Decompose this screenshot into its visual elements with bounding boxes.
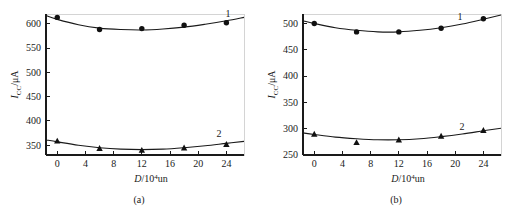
y-tick-label: 250: [283, 149, 298, 160]
data-point-marker-circle: [481, 16, 486, 21]
y-tick-label: 500: [283, 18, 298, 29]
x-tick-label: 16: [422, 158, 432, 169]
y-tick-label: 450: [26, 91, 41, 102]
series-curve-2: [303, 128, 501, 140]
y-tick-label: 300: [283, 123, 298, 134]
data-point-marker-circle: [181, 22, 186, 27]
data-point-marker-circle: [224, 20, 229, 25]
y-axis-title: ICC/μA: [9, 70, 23, 100]
chart-svg-b: 2503003504004505000481216202412D/104unIC…: [257, 0, 514, 215]
x-tick-label: 20: [193, 158, 203, 169]
series-curve-1: [303, 15, 501, 32]
y-tick-label: 400: [26, 115, 41, 126]
data-point-marker-circle: [312, 21, 317, 26]
x-tick-label: 4: [340, 158, 345, 169]
data-point-marker-circle: [97, 27, 102, 32]
x-tick-label: 8: [368, 158, 373, 169]
x-tick-label: 0: [55, 158, 60, 169]
x-tick-label: 4: [83, 158, 88, 169]
panel-caption: (a): [133, 194, 144, 206]
y-tick-label: 450: [283, 44, 298, 55]
series-label-2: 2: [460, 121, 465, 132]
plot-frame: [303, 14, 501, 155]
y-tick-label: 550: [26, 42, 41, 53]
x-tick-label: 24: [221, 158, 231, 169]
x-tick-label: 8: [111, 158, 116, 169]
y-tick-label: 350: [26, 140, 41, 151]
chart-svg-a: 3504004505005506000481216202412D/104unIC…: [0, 0, 257, 215]
x-axis-title: D/104un: [133, 173, 168, 184]
x-tick-label: 16: [165, 158, 175, 169]
y-tick-label: 500: [26, 67, 41, 78]
data-point-marker-circle: [139, 26, 144, 31]
x-axis-title: D/104un: [390, 173, 425, 184]
y-tick-label: 350: [283, 97, 298, 108]
series-curve-2: [46, 140, 244, 150]
plot-frame: [46, 14, 244, 155]
data-point-marker-triangle: [54, 138, 60, 144]
x-tick-label: 0: [312, 158, 317, 169]
y-tick-label: 400: [283, 70, 298, 81]
data-point-marker-circle: [354, 29, 359, 34]
chart-panel-a: 3504004505005506000481216202412D/104unIC…: [0, 0, 257, 215]
figure-container: 3504004505005506000481216202412D/104unIC…: [0, 0, 515, 215]
x-tick-label: 24: [478, 158, 488, 169]
panel-caption: (b): [390, 194, 402, 206]
data-point-marker-circle: [55, 15, 60, 20]
data-point-marker-circle: [396, 29, 401, 34]
series-curve-1: [46, 15, 244, 30]
chart-panel-b: 2503003504004505000481216202412D/104unIC…: [257, 0, 514, 215]
series-label-1: 1: [458, 11, 463, 22]
x-tick-label: 12: [394, 158, 404, 169]
series-label-1: 1: [226, 8, 231, 19]
y-axis-title: ICC/μA: [266, 70, 280, 100]
y-tick-label: 600: [26, 18, 41, 29]
x-tick-label: 20: [450, 158, 460, 169]
data-point-marker-triangle: [353, 139, 359, 145]
data-point-marker-circle: [438, 26, 443, 31]
series-label-2: 2: [217, 128, 222, 139]
x-tick-label: 12: [137, 158, 147, 169]
